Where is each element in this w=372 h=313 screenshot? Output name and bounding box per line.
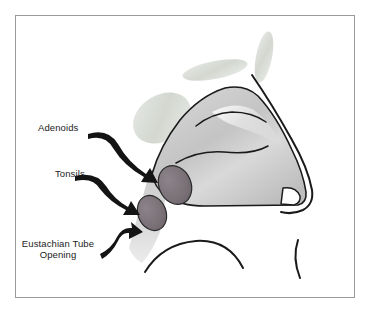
sinus-blob-right [251, 30, 277, 84]
tongue-curve [145, 241, 243, 272]
sinus-blob-middle [181, 55, 249, 85]
anatomy-figure: Adenoids Tonsils Eustachian Tube Opening [0, 0, 372, 313]
lip-curve [295, 240, 300, 278]
label-tonsils: Tonsils [55, 168, 85, 179]
pointer-arrow-tonsils [75, 175, 140, 215]
anatomy-illustration [0, 0, 372, 313]
label-eustachian-tube-opening: Eustachian Tube Opening [10, 238, 106, 260]
label-adenoids: Adenoids [38, 122, 78, 133]
